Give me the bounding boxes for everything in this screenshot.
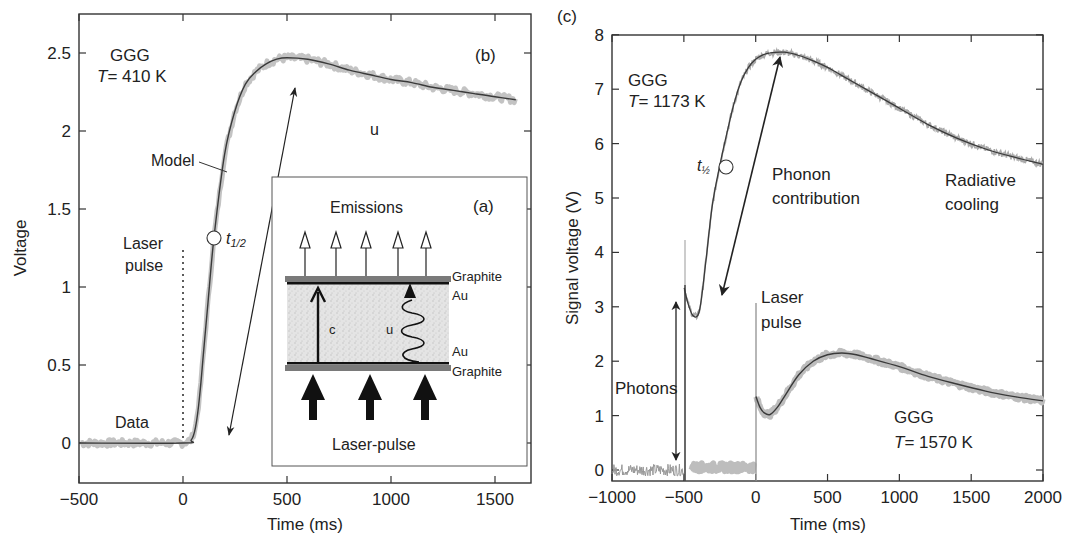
sample-body bbox=[287, 283, 449, 363]
y-tick-label: 1 bbox=[62, 278, 71, 297]
au-bottom-layer bbox=[287, 362, 449, 365]
half-time-label: t1/2 bbox=[226, 230, 246, 249]
laser-arrow-shaft bbox=[309, 398, 317, 420]
emissions-label: Emissions bbox=[330, 199, 403, 216]
radiative-label-line1: Radiative bbox=[945, 171, 1016, 190]
u-arrow-label: u bbox=[370, 121, 379, 138]
a-panel-label: (a) bbox=[473, 197, 494, 216]
y-tick-label: 0 bbox=[62, 434, 71, 453]
data-trace-1570K bbox=[756, 351, 1042, 417]
graphite-bottom-label: Graphite bbox=[452, 364, 502, 379]
panel-b-chart: −50005001000150000.511.522.5 GGG T= 410 … bbox=[11, 14, 531, 534]
b-y-axis-label: Voltage bbox=[11, 220, 30, 277]
c-half-time-marker-icon bbox=[719, 160, 733, 174]
y-tick-label: 0.5 bbox=[47, 356, 71, 375]
inset-a-diagram: Emissions (a) c u Graphite Au Au Graphit… bbox=[272, 177, 527, 466]
c-label: c bbox=[329, 322, 336, 337]
b-panel-label: (b) bbox=[475, 46, 496, 65]
b-temperature-label: T= 410 K bbox=[97, 67, 167, 86]
y-tick-label: 6 bbox=[595, 135, 604, 154]
panel-c-chart: −1000−5000500100015002000012345678 (c) G… bbox=[557, 7, 1062, 534]
c-sample-label-2: GGG bbox=[894, 408, 934, 427]
y-tick-label: 4 bbox=[595, 243, 604, 262]
baseline-noise-1173K bbox=[613, 464, 684, 476]
c-temperature-label-2: T= 1570 K bbox=[894, 433, 974, 452]
graphite-top-layer bbox=[285, 276, 451, 282]
phonon-label-line2: contribution bbox=[772, 189, 860, 208]
x-tick-label: −500 bbox=[60, 490, 98, 509]
au-bottom-label: Au bbox=[452, 344, 468, 359]
x-tick-label: 500 bbox=[813, 488, 841, 507]
x-tick-label: 1000 bbox=[880, 488, 918, 507]
graphite-top-label: Graphite bbox=[452, 269, 502, 284]
c-y-axis-label: Signal voltage (V) bbox=[563, 191, 582, 325]
y-tick-label: 2 bbox=[62, 122, 71, 141]
x-tick-label: −1000 bbox=[588, 488, 636, 507]
laser-arrow-shaft bbox=[421, 398, 429, 420]
y-tick-label: 8 bbox=[595, 26, 604, 45]
c-laser-label-line2: pulse bbox=[761, 313, 802, 332]
au-top-layer bbox=[287, 282, 449, 285]
laser-arrow-shaft bbox=[366, 398, 374, 420]
x-tick-label: 1500 bbox=[952, 488, 990, 507]
c-x-axis-label: Time (ms) bbox=[790, 515, 866, 534]
c-temperature-label-1: T= 1173 K bbox=[628, 92, 706, 111]
y-tick-label: 2 bbox=[595, 352, 604, 371]
y-tick-label: 2.5 bbox=[47, 44, 71, 63]
phonon-label-line1: Phonon bbox=[772, 165, 831, 184]
x-tick-label: 2000 bbox=[1024, 488, 1062, 507]
y-tick-label: 1.5 bbox=[47, 200, 71, 219]
c-panel-label: (c) bbox=[557, 7, 577, 26]
x-tick-label: 0 bbox=[178, 490, 187, 509]
y-tick-label: 7 bbox=[595, 80, 604, 99]
u-label: u bbox=[386, 322, 393, 337]
laser-label-line1: Laser bbox=[123, 235, 164, 252]
data-label: Data bbox=[115, 414, 149, 431]
panel-c-data-series bbox=[613, 49, 1043, 476]
laser-label-line2: pulse bbox=[125, 257, 163, 274]
b-x-axis-label: Time (ms) bbox=[267, 515, 343, 534]
y-tick-label: 1 bbox=[595, 407, 604, 426]
y-tick-label: 0 bbox=[595, 461, 604, 480]
b-sample-label: GGG bbox=[110, 46, 150, 65]
x-tick-label: 1500 bbox=[476, 490, 514, 509]
baseline-noise-1570K bbox=[691, 463, 755, 471]
photons-label: Photons bbox=[615, 379, 677, 398]
c-half-time-label: t½ bbox=[697, 157, 710, 176]
figure: −50005001000150000.511.522.5 GGG T= 410 … bbox=[0, 0, 1072, 551]
x-tick-label: −500 bbox=[665, 488, 703, 507]
x-tick-label: 0 bbox=[751, 488, 760, 507]
model-label: Model bbox=[151, 152, 195, 169]
model-curve-1570K bbox=[756, 353, 1043, 415]
laser-pulse-label: Laser-pulse bbox=[332, 436, 416, 453]
y-tick-label: 5 bbox=[595, 189, 604, 208]
c-sample-label-1: GGG bbox=[628, 71, 668, 90]
x-tick-label: 500 bbox=[273, 490, 301, 509]
graphite-bottom-layer bbox=[285, 365, 451, 371]
au-top-label: Au bbox=[452, 288, 468, 303]
c-laser-label-line1: Laser bbox=[761, 288, 804, 307]
y-tick-label: 3 bbox=[595, 298, 604, 317]
radiative-label-line2: cooling bbox=[945, 195, 999, 214]
half-time-marker-icon bbox=[207, 231, 221, 245]
x-tick-label: 1000 bbox=[372, 490, 410, 509]
